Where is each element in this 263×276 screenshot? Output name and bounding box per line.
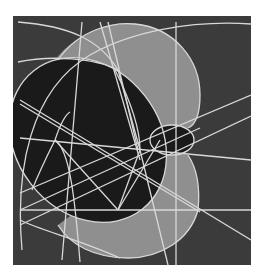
geometric-diagram [0, 0, 263, 276]
